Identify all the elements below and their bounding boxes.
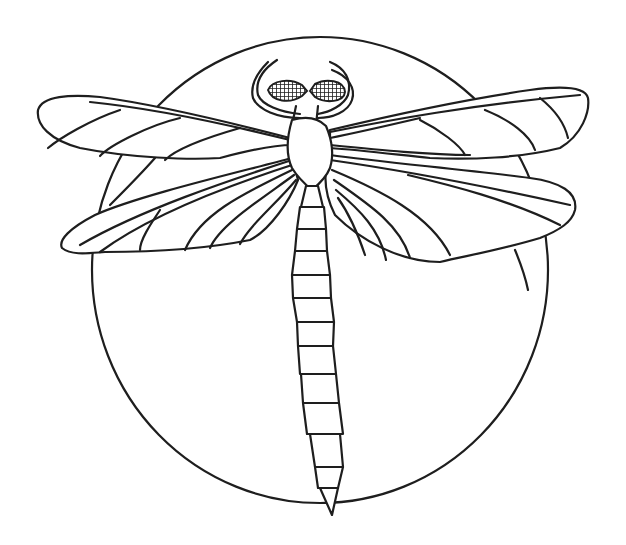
abdomen-segment	[297, 207, 326, 229]
upper-right-wing	[330, 88, 588, 159]
abdomen-segment	[297, 322, 334, 346]
abdomen-tip	[320, 488, 338, 515]
abdomen-segment	[315, 467, 343, 488]
abdomen-segment	[303, 403, 343, 434]
right-eye	[310, 81, 345, 101]
dragonfly-drawing	[0, 0, 626, 545]
abdomen-segment	[301, 374, 339, 403]
segmented-abdomen	[292, 186, 343, 515]
abdomen-segment	[301, 186, 323, 207]
abdomen-segment	[298, 346, 336, 374]
lower-left-wing	[61, 158, 298, 253]
abdomen-segment	[292, 251, 330, 275]
abdomen-segment	[293, 298, 334, 322]
left-eye	[268, 81, 307, 101]
abdomen-segment	[310, 434, 343, 467]
abdomen-segment	[295, 229, 327, 251]
lower-right-wing	[325, 155, 575, 290]
abdomen-segment	[292, 275, 331, 298]
